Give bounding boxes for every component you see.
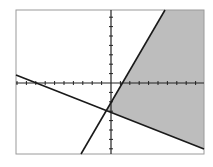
graph-plot: [0, 0, 213, 167]
shaded-region: [108, 10, 204, 149]
